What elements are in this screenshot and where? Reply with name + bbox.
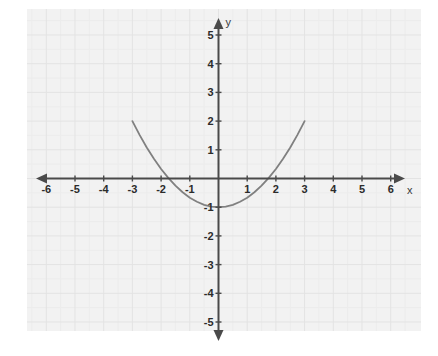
y-axis-label: y xyxy=(226,17,232,28)
y-tick-label: 5 xyxy=(197,30,214,41)
x-tick-label: -2 xyxy=(153,184,169,195)
y-tick-label: -3 xyxy=(197,260,214,271)
x-tick-label: 3 xyxy=(297,184,313,195)
x-axis-label: x xyxy=(407,185,413,196)
x-tick-label: -1 xyxy=(182,184,198,195)
x-tick-label: 4 xyxy=(325,184,341,195)
y-tick-label: 1 xyxy=(197,145,214,156)
x-tick-label: 6 xyxy=(383,184,399,195)
x-tick-label: -6 xyxy=(38,184,54,195)
x-tick-label: -4 xyxy=(96,184,112,195)
axes xyxy=(0,0,438,356)
y-tick-label: 3 xyxy=(197,87,214,98)
x-tick-label: 1 xyxy=(239,184,255,195)
y-tick-label: -1 xyxy=(197,202,214,213)
x-tick-label: 5 xyxy=(354,184,370,195)
x-tick-label: -5 xyxy=(67,184,83,195)
x-tick-label: 2 xyxy=(268,184,284,195)
y-tick-label: -5 xyxy=(197,317,214,328)
x-tick-label: -3 xyxy=(124,184,140,195)
y-tick-label: 2 xyxy=(197,116,214,127)
y-tick-label: -4 xyxy=(197,288,214,299)
y-tick-label: -2 xyxy=(197,231,214,242)
graph-figure: -6-5-4-3-2-112345654321-1-2-3-4-5 x y xyxy=(0,0,438,356)
y-tick-label: 4 xyxy=(197,59,214,70)
